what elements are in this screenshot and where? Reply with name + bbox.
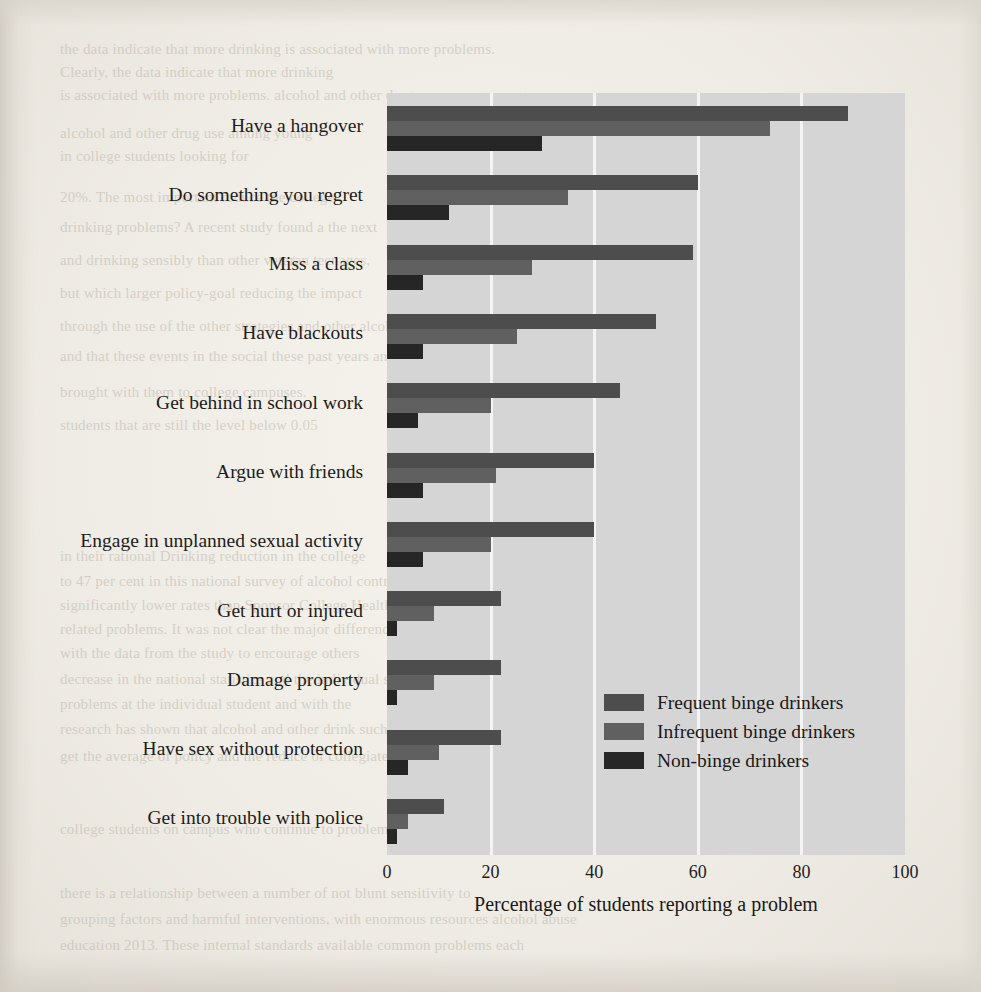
bar[interactable] — [387, 621, 397, 636]
category-label: Damage property — [227, 669, 363, 691]
bar[interactable] — [387, 522, 594, 537]
legend-item[interactable]: Infrequent binge drinkers — [604, 717, 904, 746]
bar[interactable] — [387, 329, 517, 344]
bar[interactable] — [387, 660, 501, 675]
bar[interactable] — [387, 106, 848, 121]
bar[interactable] — [387, 537, 491, 552]
legend-swatch — [604, 723, 644, 740]
bar[interactable] — [387, 413, 418, 428]
category-label: Get into trouble with police — [147, 807, 363, 829]
bar[interactable] — [387, 675, 434, 690]
bar[interactable] — [387, 730, 501, 745]
bar[interactable] — [387, 136, 542, 151]
bar[interactable] — [387, 190, 568, 205]
x-tick-label: 40 — [585, 862, 603, 883]
bar[interactable] — [387, 398, 491, 413]
bar-group — [387, 591, 905, 636]
bar-group — [387, 453, 905, 498]
bar[interactable] — [387, 175, 698, 190]
bar[interactable] — [387, 245, 693, 260]
bar[interactable] — [387, 205, 449, 220]
bar-group — [387, 245, 905, 290]
legend-label: Non-binge drinkers — [657, 750, 809, 772]
x-tick-label: 0 — [383, 862, 392, 883]
grouped-bar-chart: Have a hangoverDo something you regretMi… — [0, 0, 981, 992]
bar[interactable] — [387, 483, 423, 498]
x-tick-label: 80 — [792, 862, 810, 883]
x-tick-label: 20 — [482, 862, 500, 883]
legend-item[interactable]: Frequent binge drinkers — [604, 688, 904, 717]
bar[interactable] — [387, 606, 434, 621]
x-axis-tick-labels: 020406080100 — [387, 862, 905, 890]
legend-swatch — [604, 752, 644, 769]
bar-group — [387, 799, 905, 844]
bar[interactable] — [387, 814, 408, 829]
chart-legend: Frequent binge drinkersInfrequent binge … — [604, 688, 904, 775]
legend-label: Frequent binge drinkers — [657, 692, 843, 714]
category-label: Miss a class — [269, 253, 363, 275]
bar[interactable] — [387, 275, 423, 290]
legend-swatch — [604, 694, 644, 711]
x-axis-title: Percentage of students reporting a probl… — [387, 893, 905, 916]
category-label: Get behind in school work — [156, 392, 363, 414]
scanned-figure-page: the data indicate that more drinking is … — [0, 0, 981, 992]
bar[interactable] — [387, 121, 770, 136]
bar-group — [387, 522, 905, 567]
bar[interactable] — [387, 344, 423, 359]
bar[interactable] — [387, 799, 444, 814]
bar[interactable] — [387, 591, 501, 606]
bar-group — [387, 383, 905, 428]
category-label: Get hurt or injured — [217, 600, 363, 622]
bar[interactable] — [387, 745, 439, 760]
bar-group — [387, 175, 905, 220]
bar[interactable] — [387, 314, 656, 329]
category-label: Do something you regret — [169, 184, 363, 206]
legend-item[interactable]: Non-binge drinkers — [604, 746, 904, 775]
bar-group — [387, 106, 905, 151]
bar[interactable] — [387, 829, 397, 844]
x-tick-label: 60 — [689, 862, 707, 883]
category-label: Engage in unplanned sexual activity — [80, 530, 363, 552]
legend-label: Infrequent binge drinkers — [657, 721, 855, 743]
bar[interactable] — [387, 468, 496, 483]
bar[interactable] — [387, 552, 423, 567]
category-label: Have blackouts — [242, 322, 363, 344]
x-tick-label: 100 — [892, 862, 919, 883]
category-label: Have a hangover — [231, 115, 363, 137]
bar[interactable] — [387, 690, 397, 705]
bar[interactable] — [387, 760, 408, 775]
bar[interactable] — [387, 453, 594, 468]
category-label: Have sex without protection — [143, 738, 363, 760]
bar[interactable] — [387, 383, 620, 398]
category-axis-labels: Have a hangoverDo something you regretMi… — [0, 93, 375, 855]
bar-group — [387, 314, 905, 359]
category-label: Argue with friends — [216, 461, 363, 483]
bar[interactable] — [387, 260, 532, 275]
